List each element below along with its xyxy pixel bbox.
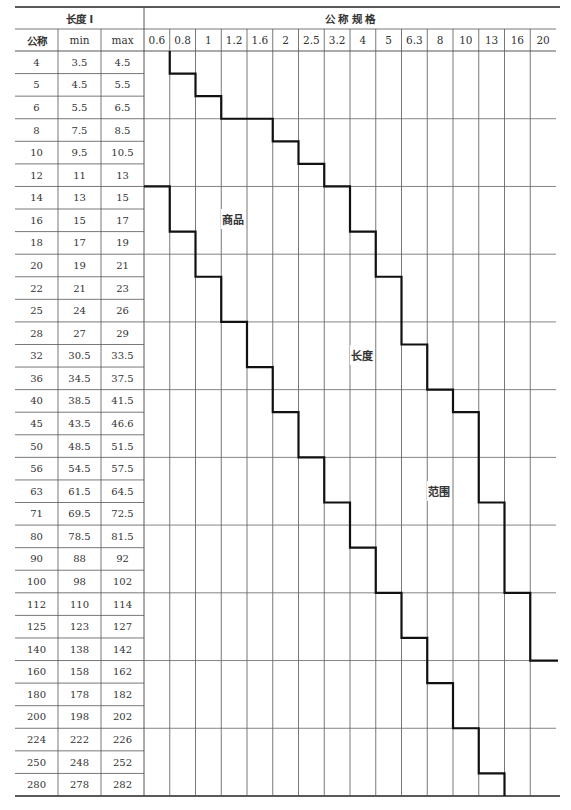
max-length-cell: 15 [101,186,144,209]
max-length-cell: 37.5 [101,367,144,390]
max-length-cell: 19 [101,232,144,255]
spec-column-header: 5 [376,29,402,51]
max-length-cell: 5.5 [101,74,144,97]
max-length-cell: 182 [101,683,144,706]
nominal-length-cell: 36 [15,367,58,390]
max-length-cell: 46.6 [101,412,144,435]
max-length-cell: 127 [101,615,144,638]
max-length-cell: 162 [101,661,144,684]
min-length-cell: 5.5 [58,96,101,119]
nominal-length-cell: 14 [15,186,58,209]
max-length-cell: 226 [101,728,144,751]
min-length-cell: 19 [58,254,101,277]
nominal-length-cell: 112 [15,593,58,616]
nominal-length-cell: 90 [15,548,58,571]
max-length-cell: 6.5 [101,96,144,119]
min-length-cell: 278 [58,773,101,796]
max-length-cell: 57.5 [101,457,144,480]
min-length-cell: 21 [58,277,101,300]
max-length-cell: 202 [101,706,144,729]
nominal-length-cell: 100 [15,570,58,593]
max-header: max [101,29,144,51]
min-length-cell: 123 [58,615,101,638]
nominal-length-cell: 160 [15,661,58,684]
nominal-length-cell: 71 [15,503,58,526]
max-length-cell: 33.5 [101,344,144,367]
min-length-cell: 38.5 [58,390,101,413]
nominal-length-cell: 125 [15,615,58,638]
nominal-length-cell: 25 [15,299,58,322]
nominal-length-cell: 63 [15,480,58,503]
max-length-cell: 17 [101,209,144,232]
nominal-length-cell: 45 [15,412,58,435]
min-length-cell: 17 [58,232,101,255]
max-length-cell: 81.5 [101,525,144,548]
min-header: min [58,29,101,51]
min-length-cell: 61.5 [58,480,101,503]
max-length-cell: 142 [101,638,144,661]
max-length-cell: 114 [101,593,144,616]
max-length-cell: 102 [101,570,144,593]
max-length-cell: 26 [101,299,144,322]
nominal-length-cell: 40 [15,390,58,413]
min-length-cell: 9.5 [58,141,101,164]
nominal-length-cell: 18 [15,232,58,255]
min-length-cell: 43.5 [58,412,101,435]
max-length-cell: 13 [101,164,144,187]
nominal-length-cell: 8 [15,119,58,142]
min-length-cell: 34.5 [58,367,101,390]
spec-column-header: 0.6 [144,29,170,51]
min-length-cell: 78.5 [58,525,101,548]
spec-column-header: 6.3 [402,29,428,51]
min-length-cell: 48.5 [58,435,101,458]
min-length-cell: 222 [58,728,101,751]
nominal-length-cell: 56 [15,457,58,480]
min-length-cell: 3.5 [58,51,101,74]
max-length-cell: 4.5 [101,51,144,74]
min-length-cell: 24 [58,299,101,322]
spec-column-header: 1 [196,29,222,51]
nominal-length-cell: 50 [15,435,58,458]
min-length-cell: 158 [58,661,101,684]
spec-column-header: 1.2 [221,29,247,51]
max-length-cell: 29 [101,322,144,345]
nominal-header: 公称 [15,29,58,51]
min-length-cell: 198 [58,706,101,729]
min-length-cell: 11 [58,164,101,187]
spec-column-header: 8 [427,29,453,51]
min-length-cell: 4.5 [58,74,101,97]
spec-column-header: 10 [453,29,479,51]
spec-column-header: 0.8 [170,29,196,51]
nominal-length-cell: 200 [15,706,58,729]
max-length-cell: 10.5 [101,141,144,164]
spec-column-header: 2 [273,29,299,51]
spec-column-header: 3.2 [324,29,350,51]
standard-length-table: 长度 l公 称 规 格公称minmax0.60.811.21.622.53.24… [0,0,571,810]
nominal-length-cell: 16 [15,209,58,232]
min-length-cell: 7.5 [58,119,101,142]
min-length-cell: 54.5 [58,457,101,480]
spec-column-header: 4 [350,29,376,51]
min-length-cell: 178 [58,683,101,706]
nominal-length-cell: 22 [15,277,58,300]
max-length-cell: 282 [101,773,144,796]
spec-column-header: 13 [479,29,505,51]
max-length-cell: 72.5 [101,503,144,526]
nominal-length-cell: 250 [15,751,58,774]
nominal-length-cell: 28 [15,322,58,345]
nominal-length-cell: 4 [15,51,58,74]
max-length-cell: 23 [101,277,144,300]
max-length-cell: 92 [101,548,144,571]
min-length-cell: 138 [58,638,101,661]
max-length-cell: 252 [101,751,144,774]
nominal-length-cell: 10 [15,141,58,164]
spec-column-header: 16 [505,29,531,51]
max-length-cell: 41.5 [101,390,144,413]
nominal-length-cell: 140 [15,638,58,661]
nominal-length-cell: 280 [15,773,58,796]
min-length-cell: 98 [58,570,101,593]
spec-column-header: 2.5 [299,29,325,51]
region-label-range: 范围 [427,481,451,501]
min-length-cell: 69.5 [58,503,101,526]
nominal-length-cell: 6 [15,96,58,119]
